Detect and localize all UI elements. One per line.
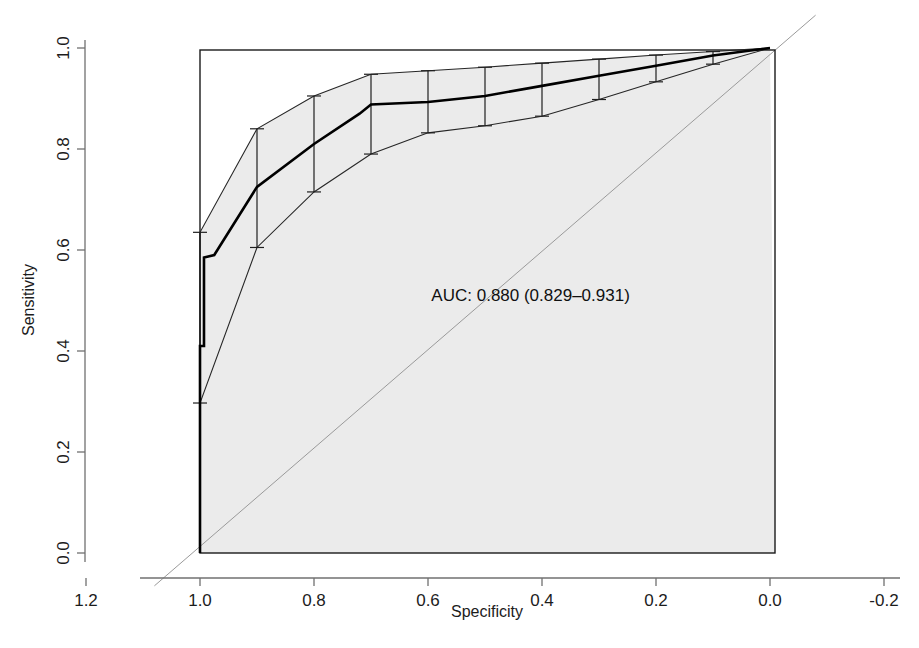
y-axis-tick-label: 0.2 bbox=[54, 440, 73, 464]
x-axis-tick-label: 1.0 bbox=[188, 591, 212, 610]
roc-plot-canvas: 1.21.00.80.60.40.20.0-0.2 0.00.20.40.60.… bbox=[0, 0, 919, 648]
y-axis-tick-label: 1.0 bbox=[54, 36, 73, 60]
y-axis-title: Sensitivity bbox=[20, 264, 37, 336]
y-axis-tick-label: 0.0 bbox=[54, 541, 73, 565]
x-axis-tick-label: 0.6 bbox=[416, 591, 440, 610]
x-axis-tick-label: -0.2 bbox=[869, 591, 898, 610]
x-axis-title: Specificity bbox=[451, 603, 523, 620]
x-axis-tick-label: 0.2 bbox=[644, 591, 668, 610]
auc-annotation-label: AUC: 0.880 (0.829–0.931) bbox=[431, 286, 629, 305]
y-axis-tick-label: 0.8 bbox=[54, 137, 73, 161]
x-axis-tick-label: 0.4 bbox=[530, 591, 554, 610]
x-axis-tick-label: 0.0 bbox=[758, 591, 782, 610]
y-axis-tick-label: 0.6 bbox=[54, 238, 73, 262]
x-axis-tick-label: 0.8 bbox=[302, 591, 326, 610]
x-axis-tick-label: 1.2 bbox=[74, 591, 98, 610]
y-axis-tick-label: 0.4 bbox=[54, 339, 73, 363]
roc-chart: 1.21.00.80.60.40.20.0-0.2 0.00.20.40.60.… bbox=[0, 0, 919, 648]
